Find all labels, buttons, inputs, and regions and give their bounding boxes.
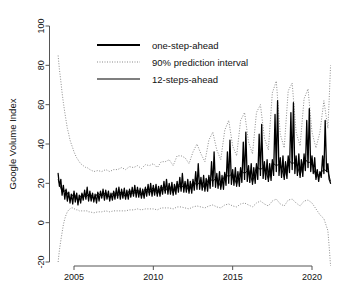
y-tick-label: 20 [36,178,46,188]
legend-label-2: 12-steps-ahead [152,74,218,85]
x-tick-label: 2015 [223,272,243,282]
y-tick-label: 100 [36,18,46,33]
y-axis-title-text: Google Volume Index [7,98,18,189]
x-tick-label: 2020 [302,272,322,282]
legend-label-0: one-step-ahead [152,40,219,51]
x-tick-label: 2005 [64,272,84,282]
y-axis-title: Google Volume Index [7,98,18,189]
x-tick-label: 2010 [143,272,163,282]
chart-container: -20020406080100 2005201020152020 Google … [0,0,342,299]
legend-label-1: 90% prediction interval [152,57,248,68]
y-tick-label: 80 [36,60,46,70]
y-tick-label: 0 [36,220,46,225]
y-tick-label: -20 [36,255,46,268]
google-volume-index-chart: -20020406080100 2005201020152020 Google … [0,0,342,299]
y-tick-label: 40 [36,139,46,149]
y-tick-label: 60 [36,100,46,110]
